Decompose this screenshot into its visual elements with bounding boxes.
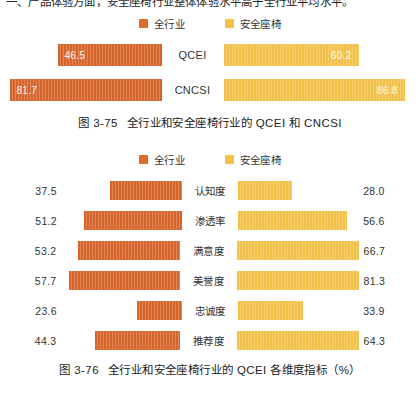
- category-label-cncsi: CNCSI: [162, 84, 224, 96]
- caption-number: 图 3-75: [78, 117, 118, 129]
- left-value-label: 37.5: [0, 185, 62, 197]
- bar-safety-seat-awareness: [238, 181, 292, 200]
- legend-item-label: 安全座椅: [240, 16, 281, 31]
- bar-industry-cncsi: 81.7: [10, 79, 162, 101]
- bar-safety-seat-cncsi: 86.8: [224, 79, 405, 101]
- bar-industry-reputation: [69, 271, 180, 290]
- bar-row-qcei: 46.5 QCEI 60.2: [0, 44, 420, 66]
- bar-industry-loyalty: [137, 301, 182, 320]
- legend-item-safety-seat: 安全座椅: [225, 152, 281, 167]
- legend-item-safety-seat: 安全座椅: [225, 16, 281, 31]
- legend-item-label: 全行业: [154, 152, 185, 167]
- left-value-label: 44.3: [0, 335, 61, 347]
- caption-text: 全行业和安全座椅行业的 QCEI 和 CNCSI: [127, 117, 342, 129]
- left-bar-cell: [62, 301, 182, 320]
- yellow-swatch: [225, 19, 234, 28]
- category-label-awareness: 认知度: [182, 183, 239, 198]
- right-value-label: 81.3: [359, 275, 420, 287]
- right-value-label: 33.9: [358, 305, 420, 317]
- caption-text: 全行业和安全座椅行业的 QCEI 各维度指标（%）: [108, 364, 361, 376]
- orange-swatch: [139, 19, 148, 28]
- caption-number: 图 3-76: [59, 364, 99, 376]
- right-bar-cell: [237, 271, 359, 290]
- left-bar-cell: [61, 271, 180, 290]
- legend-item-label: 全行业: [154, 16, 185, 31]
- caption-figure-3-75: 图 3-75全行业和安全座椅行业的 QCEI 和 CNCSI: [0, 114, 420, 130]
- bar-safety-seat-recommendation: [237, 331, 359, 350]
- caption-figure-3-76: 图 3-76全行业和安全座椅行业的 QCEI 各维度指标（%）: [0, 361, 420, 377]
- category-label-satisfaction: 满意度: [180, 243, 236, 258]
- bar-industry-penetration: [84, 211, 182, 230]
- category-label-loyalty: 忠诚度: [182, 303, 239, 318]
- bar-safety-seat-qcei: 60.2: [224, 44, 359, 66]
- bar-safety-seat-penetration: [238, 211, 347, 230]
- legend-item-industry: 全行业: [139, 16, 185, 31]
- right-value-label: 66.7: [359, 245, 420, 257]
- figure-page: 一、产品体验方面，安全座椅行业整体体验水平高于全行业平均水平。 全行业 安全座椅…: [0, 0, 420, 411]
- right-value-label: 56.6: [358, 215, 420, 227]
- bar-value-label: 86.8: [377, 85, 398, 96]
- right-bar-cell: [238, 181, 358, 200]
- legend-figure-3-76: 全行业 安全座椅: [0, 152, 420, 167]
- running-body-text: 一、产品体验方面，安全座椅行业整体体验水平高于全行业平均水平。: [6, 0, 414, 7]
- right-bar-cell: [237, 241, 359, 260]
- bar-row-cncsi: 81.7 CNCSI 86.8: [0, 79, 420, 101]
- right-bar-cell: [238, 211, 358, 230]
- bar-safety-seat-reputation: [237, 271, 359, 290]
- right-value-label: 64.3: [359, 335, 420, 347]
- left-bar-cell: [61, 331, 180, 350]
- left-bar-cell: 46.5: [7, 44, 162, 66]
- right-bar-cell: [237, 331, 359, 350]
- yellow-swatch: [225, 155, 234, 164]
- left-bar-cell: [61, 241, 180, 260]
- right-value-label: 28.0: [358, 185, 420, 197]
- bar-row-loyalty: 23.6 忠诚度 33.9: [0, 301, 420, 320]
- bar-row-penetration: 51.2 渗透率 56.6: [0, 211, 420, 230]
- right-bar-cell: 60.2: [224, 44, 414, 66]
- orange-swatch: [139, 155, 148, 164]
- bar-safety-seat-loyalty: [238, 301, 303, 320]
- legend-item-label: 安全座椅: [240, 152, 281, 167]
- bar-safety-seat-satisfaction: [237, 241, 359, 260]
- left-value-label: 23.6: [0, 305, 62, 317]
- bar-industry-qcei: 46.5: [58, 44, 162, 66]
- left-bar-cell: [62, 181, 182, 200]
- bar-industry-recommendation: [95, 331, 180, 350]
- bar-industry-awareness: [110, 181, 182, 200]
- bar-row-awareness: 37.5 认知度 28.0: [0, 181, 420, 200]
- bar-industry-satisfaction: [78, 241, 180, 260]
- category-label-penetration: 渗透率: [182, 213, 239, 228]
- right-bar-cell: [238, 301, 358, 320]
- figure-3-76: 全行业 安全座椅 37.5 认知度 28.0 51.2 渗透率: [0, 152, 420, 377]
- left-value-label: 57.7: [0, 275, 61, 287]
- left-value-label: 51.2: [0, 215, 62, 227]
- left-bar-cell: 81.7: [7, 79, 162, 101]
- figure-3-75: 全行业 安全座椅 46.5 QCEI 60.2: [0, 16, 420, 130]
- category-label-recommendation: 推荐度: [180, 333, 236, 348]
- category-label-reputation: 美誉度: [180, 273, 236, 288]
- bar-row-satisfaction: 53.2 满意度 66.7: [0, 241, 420, 260]
- bar-row-recommendation: 44.3 推荐度 64.3: [0, 331, 420, 350]
- bar-row-reputation: 57.7 美誉度 81.3: [0, 271, 420, 290]
- bar-value-label: 81.7: [17, 85, 38, 96]
- right-bar-cell: 86.8: [224, 79, 414, 101]
- left-bar-cell: [62, 211, 182, 230]
- left-value-label: 53.2: [0, 245, 61, 257]
- legend-item-industry: 全行业: [139, 152, 185, 167]
- bar-value-label: 46.5: [65, 50, 86, 61]
- legend-figure-3-75: 全行业 安全座椅: [0, 16, 420, 31]
- bar-value-label: 60.2: [331, 50, 352, 61]
- category-label-qcei: QCEI: [162, 49, 224, 61]
